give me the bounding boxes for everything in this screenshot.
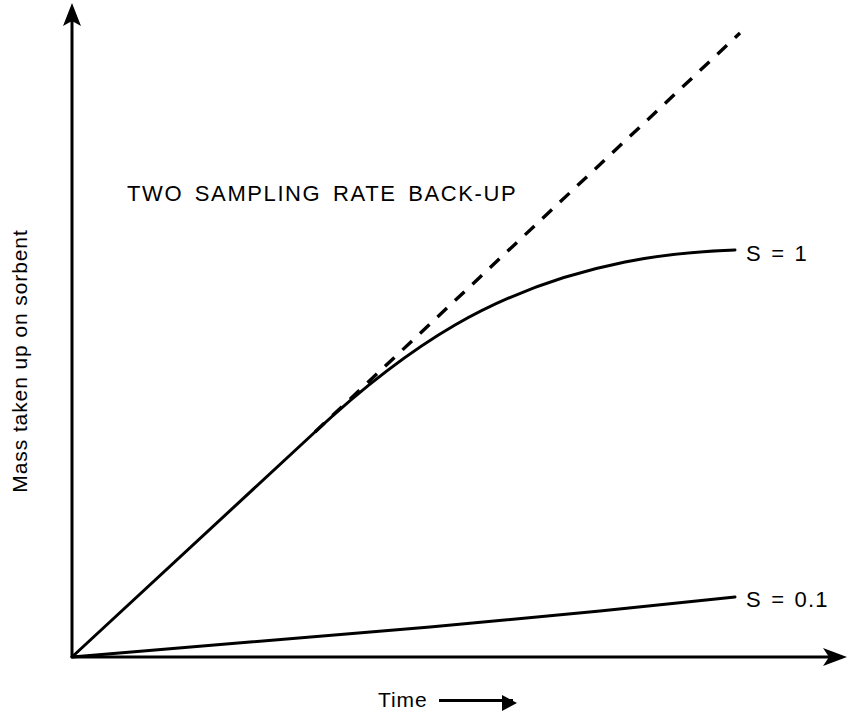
figure-canvas: TWO SAMPLING RATE BACK-UP S = 1 S = 0.1 … [0, 0, 861, 721]
chart-plot-area [0, 0, 861, 721]
x-axis-direction-arrow-icon [439, 699, 513, 702]
y-axis-title-text: Mass taken up on sorbent [8, 229, 32, 492]
axes-group [63, 3, 847, 666]
series-line-ideal-extrapolation-dashed [315, 33, 740, 432]
x-axis-title-text: Time [378, 688, 428, 711]
y-axis-title: Mass taken up on sorbent [0, 0, 40, 721]
series-line-s1 [72, 250, 735, 657]
chart-title: TWO SAMPLING RATE BACK-UP [127, 181, 517, 207]
x-axis-title: Time [378, 688, 513, 712]
series-label-s1: S = 1 [746, 241, 808, 267]
series-label-s01: S = 0.1 [746, 587, 829, 613]
series-line-s01 [72, 597, 735, 657]
